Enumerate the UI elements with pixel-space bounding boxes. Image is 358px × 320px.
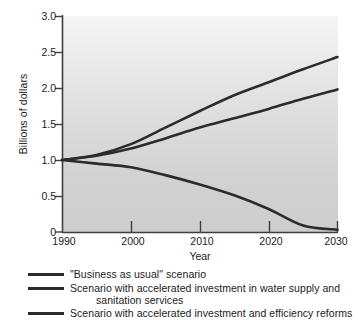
legend-item-label-line2: sanitation services: [70, 294, 340, 306]
x-tick-label: 2010: [179, 235, 225, 247]
y-tick-label: 1.5: [26, 119, 56, 129]
x-axis-title: Year: [62, 250, 338, 262]
legend-item-label: Scenario with accelerated investment and…: [70, 307, 352, 319]
x-tick-label: 2000: [110, 235, 156, 247]
legend-item-label: Scenario with accelerated investment in …: [70, 282, 340, 294]
y-axis-title: Billions of dollars: [17, 44, 29, 184]
legend-line-swatch-icon: [28, 312, 64, 315]
line-chart-figure: 3.0 2.5 2.0 1.5 1.0 0.5 0 1990 2000 2010…: [0, 0, 358, 268]
y-tick-label: 3.0: [26, 11, 56, 21]
x-tick-label: 1990: [41, 235, 87, 247]
legend-item: "Business as usual" scenario: [28, 268, 358, 280]
legend-line-swatch-icon: [28, 273, 64, 276]
chart-screenshot: 3.0 2.5 2.0 1.5 1.0 0.5 0 1990 2000 2010…: [0, 0, 358, 320]
legend-item-label: "Business as usual" scenario: [70, 268, 206, 280]
y-tick-label: 2.5: [26, 47, 56, 57]
legend-item: Scenario with accelerated investment in …: [28, 282, 358, 306]
y-tick-label: 0.5: [26, 191, 56, 201]
chart-legend: "Business as usual" scenario Scenario wi…: [0, 268, 358, 320]
x-tick-label: 2020: [248, 235, 294, 247]
legend-line-swatch-icon: [28, 287, 64, 290]
y-tick-label: 2.0: [26, 83, 56, 93]
legend-item: Scenario with accelerated investment and…: [28, 307, 358, 319]
x-tick-label-group: 1990 2000 2010 2020 2030: [0, 235, 358, 251]
plot-background: [62, 16, 338, 232]
y-tick-label: 1.0: [26, 155, 56, 165]
x-tick-label: 2030: [313, 235, 358, 247]
